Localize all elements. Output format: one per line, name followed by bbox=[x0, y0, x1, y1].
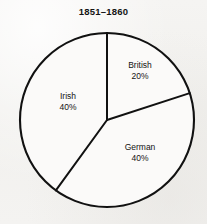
slice-label-irish-value: 40% bbox=[59, 102, 76, 113]
slice-label-irish-name: Irish bbox=[59, 91, 76, 102]
slice-label-german: German 40% bbox=[125, 142, 156, 164]
pie-graphic bbox=[0, 0, 207, 224]
slice-label-german-value: 40% bbox=[125, 153, 156, 164]
pie-chart-figure: 1851–1860 British 20% German 40% Irish 4… bbox=[0, 0, 207, 224]
slice-label-german-name: German bbox=[125, 142, 156, 153]
slice-label-british-name: British bbox=[128, 60, 152, 71]
slice-label-british: British 20% bbox=[128, 60, 152, 82]
slice-label-british-value: 20% bbox=[128, 71, 152, 82]
slice-label-irish: Irish 40% bbox=[59, 91, 76, 113]
